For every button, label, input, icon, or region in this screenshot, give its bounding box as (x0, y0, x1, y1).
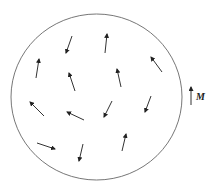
moment-arrow-icon (66, 36, 72, 53)
moment-arrow-icon (104, 101, 112, 117)
moment-arrow-icon (117, 69, 121, 87)
magnetic-domain-diagram (0, 0, 217, 190)
magnetization-label: M (196, 92, 205, 102)
moment-arrow-icon (145, 96, 151, 112)
moment-arrow-icon (37, 143, 55, 149)
moment-arrow-icon (30, 102, 44, 116)
moment-arrow-icon (79, 144, 83, 161)
domain-boundary-circle (11, 14, 182, 180)
moment-arrow-icon (122, 134, 126, 151)
moment-arrows-group (30, 34, 162, 161)
moment-arrow-icon (36, 59, 39, 78)
moment-arrow-icon (151, 57, 162, 72)
moment-arrow-icon (105, 34, 107, 53)
moment-arrow-icon (69, 73, 75, 91)
moment-arrow-icon (67, 112, 84, 120)
